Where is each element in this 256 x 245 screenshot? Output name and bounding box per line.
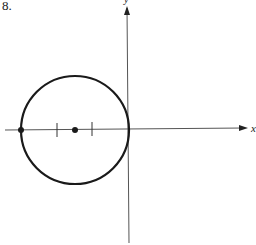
figure-number: 8. — [2, 0, 12, 13]
x-axis-arrow-icon — [239, 125, 248, 131]
center-point — [72, 127, 78, 133]
y-axis-label: y — [123, 0, 129, 5]
y-axis-arrow-icon — [124, 6, 130, 15]
x-axis — [5, 128, 244, 130]
leftmost-point — [18, 127, 24, 133]
circle-diagram: 8. x y — [0, 0, 256, 245]
x-axis-label: x — [250, 122, 256, 134]
